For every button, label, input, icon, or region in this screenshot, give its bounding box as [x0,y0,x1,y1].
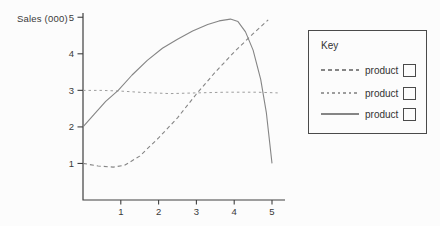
axes: 1234512345 [69,12,285,217]
legend-label: product [365,109,398,120]
x-tick-label: 1 [118,206,123,217]
series-fine-dashed-line [83,90,278,93]
y-tick-label: 5 [69,12,74,23]
figure: 1234512345 Sales (000) Key product produ… [0,0,440,226]
x-tick-label: 5 [269,206,274,217]
x-tick-label: 2 [156,206,161,217]
answer-box-product-2[interactable] [403,87,416,100]
answer-box-product-1[interactable] [403,64,416,77]
y-tick-label: 4 [69,48,74,59]
y-tick-label: 2 [69,121,74,132]
answer-box-product-3[interactable] [403,108,416,121]
y-axis-label: Sales (000) [17,13,68,24]
legend-label: product [365,88,398,99]
x-tick-label: 4 [232,206,237,217]
dashed-line-sample-icon [321,69,359,71]
series-dashed-line [83,20,268,167]
y-tick-label: 1 [69,158,74,169]
solid-line-sample-icon [321,113,359,115]
legend-key-box: Key product product product [308,30,427,134]
legend-title: Key [321,40,415,51]
legend-label: product [365,65,398,76]
legend-row-fine-dashed: product [321,85,415,101]
x-tick-label: 3 [194,206,199,217]
legend-row-dashed: product [321,62,415,78]
legend-row-solid: product [321,106,415,122]
fine-dashed-line-sample-icon [321,92,359,94]
y-tick-label: 3 [69,85,74,96]
